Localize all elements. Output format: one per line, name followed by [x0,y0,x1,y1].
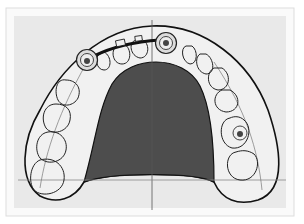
implant-upper-left [77,50,98,71]
bar-clip-2 [135,35,143,41]
dental-arch-diagram [0,0,304,224]
implant-upper-right [156,33,177,54]
diagram-frame [0,0,304,224]
bar-clip-1 [115,39,125,47]
